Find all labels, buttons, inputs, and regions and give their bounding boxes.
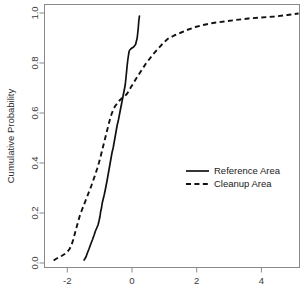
y-axis-title: Cumulative Probability [5,88,16,183]
x-tick-label: -2 [63,275,71,286]
y-tick-label: 0.2 [29,206,40,219]
ecdf-plot: 0.00.20.40.60.81.0 -2024 Cumulative Prob… [0,0,308,308]
y-tick-label: 0.6 [29,106,40,119]
y-tick-label: 0.4 [29,156,40,169]
plot-background [0,0,308,308]
y-tick-label: 1.0 [29,6,40,19]
x-tick-label: 4 [259,275,264,286]
legend-label-cleanup-area: Cleanup Area [214,178,272,189]
x-tick-label: 2 [194,275,199,286]
chart-container: 0.00.20.40.60.81.0 -2024 Cumulative Prob… [0,0,308,308]
y-tick-label: 0.8 [29,56,40,69]
y-tick-label: 0.0 [29,256,40,269]
legend-label-reference-area: Reference Area [214,165,281,176]
x-tick-label: 0 [129,275,134,286]
